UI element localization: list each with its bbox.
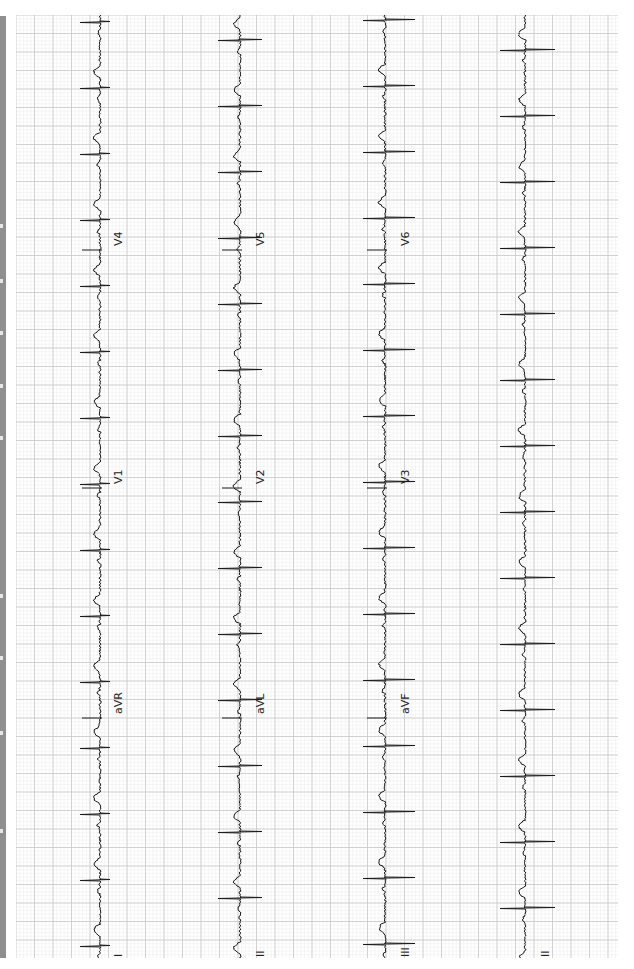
lead-label-V1: V1 [113, 469, 124, 484]
lead-label-I: I [113, 954, 124, 957]
lead-label-aVL: aVL [255, 694, 266, 714]
ecg-traces [16, 15, 618, 958]
lead-label-III: III [400, 947, 411, 957]
lead-label-V5: V5 [255, 231, 266, 246]
perforation-dot [0, 384, 3, 388]
ecg-grid-paper [16, 15, 618, 958]
perforation-dot [0, 731, 3, 735]
side-binding-strip [0, 16, 6, 958]
perforation-dot [0, 224, 3, 228]
lead-label-aVF: aVF [400, 693, 411, 714]
perforation-dot [0, 331, 3, 335]
perforation-dot [0, 436, 3, 440]
perforation-dot [0, 656, 3, 660]
lead-label-II-rhythm: II [540, 951, 551, 958]
lead-label-V6: V6 [400, 231, 411, 246]
perforation-dot [0, 829, 3, 833]
lead-label-aVR: aVR [113, 692, 124, 714]
lead-label-V2: V2 [255, 469, 266, 484]
lead-label-II: II [255, 951, 266, 958]
perforation-dot [0, 279, 3, 283]
lead-label-V3: V3 [400, 469, 411, 484]
perforation-dot [0, 594, 3, 598]
lead-label-V4: V4 [113, 231, 124, 246]
